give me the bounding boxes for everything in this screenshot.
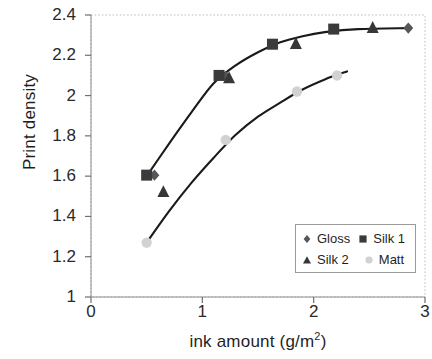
legend-row: Gloss Silk 1 xyxy=(301,228,411,249)
x-axis-title-tail: ) xyxy=(321,332,327,351)
data-point-circle xyxy=(332,70,342,80)
legend-entry-silk-1: Silk 1 xyxy=(357,232,405,245)
data-point-triangle xyxy=(367,21,379,33)
legend-label-matt: Matt xyxy=(379,253,404,266)
triangle-marker-icon xyxy=(301,254,313,266)
circle-marker-icon xyxy=(363,254,375,266)
data-point-square xyxy=(267,39,278,50)
data-point-circle xyxy=(221,135,231,145)
legend-entry-silk-2: Silk 2 xyxy=(301,253,349,266)
diamond-marker-icon xyxy=(301,233,313,245)
legend-entry-matt: Matt xyxy=(363,253,404,266)
legend-label-gloss: Gloss xyxy=(317,232,350,245)
data-point-square xyxy=(328,24,339,35)
data-point-diamond xyxy=(403,22,413,33)
chart-legend: Gloss Silk 1 Silk 2 Matt xyxy=(295,224,416,273)
trend-curve xyxy=(147,71,347,242)
data-point-circle xyxy=(141,237,151,247)
x-axis-title: ink amount (g/m2) xyxy=(90,332,426,352)
print-density-chart: Print density 11.21.41.61.822.22.4 0123 … xyxy=(0,0,432,359)
data-point-triangle xyxy=(157,185,169,197)
trend-curve xyxy=(147,28,409,176)
legend-entry-gloss: Gloss xyxy=(301,232,350,245)
legend-label-silk-1: Silk 1 xyxy=(373,232,405,245)
plot-area xyxy=(0,0,432,359)
data-point-square xyxy=(214,70,225,81)
series-silk-1 xyxy=(141,24,339,181)
x-axis-title-base: ink amount (g/m xyxy=(189,332,314,351)
legend-label-silk-2: Silk 2 xyxy=(317,253,349,266)
series-matt xyxy=(141,70,342,248)
data-point-square xyxy=(141,170,152,181)
square-marker-icon xyxy=(357,233,369,245)
legend-row: Silk 2 Matt xyxy=(301,249,411,270)
data-point-circle xyxy=(292,86,302,96)
